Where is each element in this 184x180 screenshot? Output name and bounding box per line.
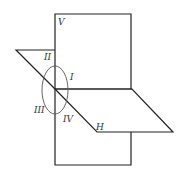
label-quadrant-2: II — [43, 52, 52, 62]
label-quadrant-4: IV — [62, 114, 75, 124]
label-v: V — [58, 17, 66, 27]
horizontal-plane-front — [55, 89, 173, 132]
quadrant-diagram: V H I II III IV — [0, 0, 184, 180]
label-quadrant-1: I — [69, 72, 74, 82]
label-h: H — [95, 122, 104, 132]
label-quadrant-3: III — [33, 105, 45, 115]
